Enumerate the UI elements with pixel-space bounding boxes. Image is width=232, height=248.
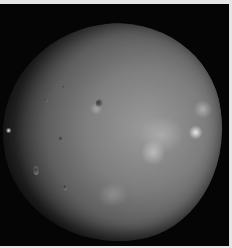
crater: [62, 184, 67, 190]
bright-spot: [188, 125, 204, 141]
crater: [62, 85, 65, 88]
crater: [44, 98, 49, 103]
crater: [58, 136, 64, 142]
space-background: [0, 4, 229, 246]
crater: [95, 99, 103, 107]
bright-spot: [6, 127, 13, 134]
crater: [33, 166, 39, 176]
moon-body: [0, 10, 229, 246]
bright-spot: [141, 137, 167, 168]
